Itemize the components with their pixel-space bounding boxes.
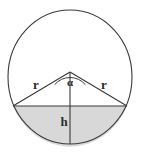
radius-left-label: r [33, 77, 39, 92]
geometry-figure: r α r h [0, 0, 141, 153]
segment-height-label: h [60, 114, 68, 129]
circle-segment-diagram: r α r h [0, 0, 141, 153]
central-angle-label: α [67, 76, 74, 88]
radius-right-label: r [101, 77, 107, 92]
